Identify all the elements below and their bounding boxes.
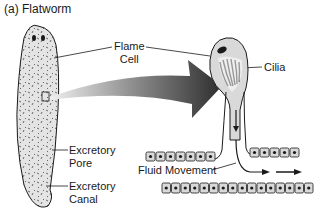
upper-right-row-cell-nucleus — [263, 151, 266, 154]
upper-left-row-cell-nucleus — [159, 155, 162, 158]
lower-row-cell-nucleus — [279, 186, 282, 189]
lower-row-cell-nucleus — [203, 186, 206, 189]
flatworm-body — [17, 25, 59, 207]
flame-cell-leader-left — [54, 47, 112, 58]
excretory-pore-label: Excretory Pore — [69, 144, 115, 170]
upper-left-row-cell-nucleus — [209, 155, 212, 158]
upper-right-row-cell-nucleus — [253, 151, 256, 154]
excretory-canal-label-line2: Canal — [69, 193, 115, 206]
lower-row-cell-nucleus — [165, 186, 168, 189]
eyespot-right — [41, 35, 45, 41]
flame-cell-leader-right — [146, 47, 210, 56]
lower-row-cell-nucleus — [250, 186, 253, 189]
lower-row-cell-nucleus — [269, 186, 272, 189]
fluid-arrowhead-curve — [262, 169, 270, 175]
fluid-movement-label: Fluid Movement — [138, 164, 216, 177]
upper-left-row-cell-nucleus — [149, 155, 152, 158]
upper-right-row-cell-nucleus — [283, 151, 286, 154]
lower-row-cell-nucleus — [193, 186, 196, 189]
lower-row-cell-nucleus — [222, 186, 225, 189]
excretory-canal-label-line1: Excretory — [69, 180, 115, 193]
excretory-canal-label: Excretory Canal — [69, 180, 115, 206]
flame-cell-label-line2: Cell — [114, 53, 145, 66]
lower-row-cell-nucleus — [231, 186, 234, 189]
lower-row-cell-nucleus — [241, 186, 244, 189]
upper-right-row-cell-nucleus — [273, 151, 276, 154]
magnification-arrow — [50, 60, 222, 118]
lower-row-cell-nucleus — [184, 186, 187, 189]
upper-left-row-cell-nucleus — [199, 155, 202, 158]
flame-cell-label: Flame Cell — [114, 40, 145, 66]
upper-left-row-cell-nucleus — [179, 155, 182, 158]
fluid-arrowhead-straight — [294, 169, 302, 175]
lower-row-cell-nucleus — [212, 186, 215, 189]
lower-row-cell-nucleus — [298, 186, 301, 189]
upper-left-row-cell-nucleus — [189, 155, 192, 158]
eyespot-left — [32, 35, 36, 41]
lower-row-cell-nucleus — [307, 186, 310, 189]
tubule-wall-left — [210, 92, 226, 160]
tubule-wall-right — [244, 92, 256, 156]
upper-left-row-cell-nucleus — [169, 155, 172, 158]
upper-right-row-cell-nucleus — [293, 151, 296, 154]
diagram-canvas — [0, 0, 322, 215]
excretory-pore-label-line2: Pore — [69, 157, 115, 170]
lower-row-cell-nucleus — [288, 186, 291, 189]
cilia-label: Cilia — [264, 61, 285, 74]
lower-row-cell-nucleus — [174, 186, 177, 189]
lower-row-cell-nucleus — [260, 186, 263, 189]
flame-cell-label-line1: Flame — [114, 40, 145, 53]
excretory-pore-label-line1: Excretory — [69, 144, 115, 157]
